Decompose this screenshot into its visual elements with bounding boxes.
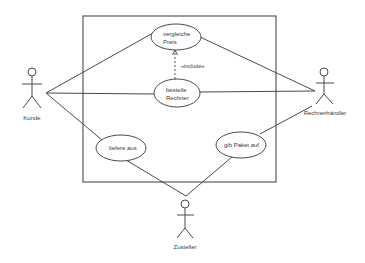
use-case-label: gib Paket auf: [224, 142, 259, 148]
use-case-diagram: «include» vergleiche Preis bestelle Rech…: [0, 0, 365, 263]
include-label: «include»: [181, 63, 205, 69]
association-kunde-liefere-aus: [46, 93, 102, 140]
actor-zusteller[interactable]: Zusteller: [173, 200, 196, 250]
use-case-label-line1: vergleiche: [163, 31, 191, 37]
stick-figure-icon: [22, 68, 42, 108]
include-dependency: «include»: [173, 50, 205, 79]
use-case-ellipse: [151, 24, 201, 50]
actor-label: Kunde: [23, 115, 41, 121]
actor-kunde[interactable]: Kunde: [22, 68, 42, 121]
use-case-label-line2: Preis: [163, 39, 177, 45]
use-case-label-line2: Rechner: [166, 95, 189, 101]
actor-label: Rechnerhändler: [304, 110, 347, 116]
use-case-label: liefere aus: [109, 145, 137, 151]
use-case-liefere-aus[interactable]: liefere aus: [96, 135, 146, 161]
stick-figure-icon: [177, 200, 194, 238]
use-case-gib-paket-auf[interactable]: gib Paket auf: [216, 132, 266, 158]
actor-rechnerhaendler[interactable]: Rechnerhändler: [304, 68, 347, 116]
association-zusteller-gib-paket-auf: [186, 157, 232, 196]
association-kunde-bestelle-rechner: [46, 93, 154, 94]
association-rechnerhaendler-bestelle-rechner: [200, 91, 315, 92]
use-case-ellipse: [154, 79, 200, 107]
use-case-bestelle-rechner[interactable]: bestelle Rechner: [154, 79, 200, 107]
use-case-vergleiche-preis[interactable]: vergleiche Preis: [151, 24, 201, 50]
association-rechnerhaendler-vergleiche-preis: [200, 37, 315, 91]
association-zusteller-liefere-aus: [126, 160, 186, 196]
use-case-label-line1: bestelle: [166, 87, 187, 93]
actor-label: Zusteller: [173, 244, 196, 250]
association-kunde-vergleiche-preis: [46, 33, 153, 93]
stick-figure-icon: [316, 68, 334, 104]
associations: [46, 33, 315, 196]
